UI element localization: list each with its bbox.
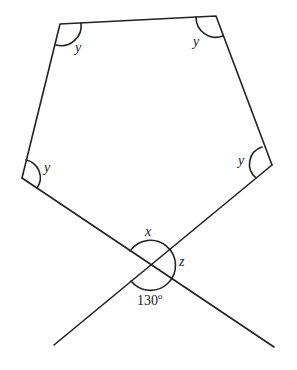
label-y-top-left: y [73,40,82,55]
label-y-left: y [42,160,51,175]
label-y-right: y [236,153,245,168]
pentagon-upper-sides [22,16,272,178]
label-130-degrees: 130o [137,291,163,308]
label-z: z [178,254,185,269]
line-right-to-bottom-left [54,165,272,345]
angle-arc-left [26,160,40,188]
geometry-diagram: y y y y x z 130o [0,0,297,370]
label-x: x [144,224,152,239]
label-y-top-right: y [191,34,200,49]
line-left-to-bottom-right [22,178,274,347]
angle-arc-top-right [196,17,223,37]
angle-arc-right [249,147,262,178]
